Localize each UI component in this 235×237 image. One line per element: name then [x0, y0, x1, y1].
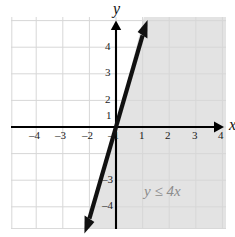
x-tick-label-neg2: –2	[82, 130, 93, 141]
x-tick-label-neg4: –4	[29, 130, 40, 141]
x-tick-label-pos1: 1	[139, 130, 145, 141]
x-tick-label-neg1: –1	[108, 130, 119, 141]
y-tick-label-pos3: 3	[105, 67, 111, 78]
coordinate-plane-graphic	[0, 0, 235, 237]
x-tick-label-pos2: 2	[165, 130, 171, 141]
y-tick-label-pos4: 4	[105, 41, 111, 52]
graph-figure: y x –4 –3 –2 –1 1 2 3 4 4 3 2 1 –3 –4 y …	[0, 0, 235, 237]
y-tick-label-neg3: –3	[102, 174, 113, 185]
y-axis-label: y	[113, 1, 120, 17]
x-tick-label-neg3: –3	[55, 130, 66, 141]
y-tick-label-pos1: 1	[106, 110, 112, 121]
x-tick-label-pos4: 4	[218, 130, 224, 141]
y-tick-label-pos2: 2	[105, 94, 111, 105]
x-tick-label-pos3: 3	[192, 130, 198, 141]
x-axis-label: x	[229, 117, 235, 133]
y-tick-label-neg4: –4	[102, 200, 113, 211]
inequality-label: y ≤ 4x	[144, 184, 181, 199]
